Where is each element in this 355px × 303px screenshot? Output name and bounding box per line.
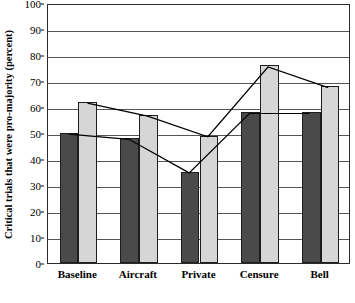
y-tick-mark [41,30,44,31]
bar [60,133,79,263]
y-tick-mark [41,108,44,109]
bar [200,136,219,263]
bar [260,65,279,263]
y-tick-mark [41,238,44,239]
x-tick-label: Aircraft [119,268,157,280]
x-axis-category-labels: BaselineAircraftPrivateCensureBell [47,266,350,290]
y-tick-label: 30 [30,180,41,192]
y-tick-label: 60 [30,102,41,114]
y-axis-title: Critical trials that were pro-majority (… [0,0,18,268]
y-tick-label: 70 [30,76,41,88]
y-tick-mark [41,264,44,265]
y-axis-tick-labels: 0102030405060708090100 [18,0,44,268]
y-tick-label: 100 [25,0,42,10]
y-tick-mark [41,212,44,213]
y-tick-mark [41,4,44,5]
x-tick-label: Bell [311,268,329,280]
bar [321,86,340,263]
x-tick-label: Censure [240,268,279,280]
bar [181,172,200,263]
y-tick-mark [41,82,44,83]
bar-chart: Critical trials that were pro-majority (… [0,0,355,303]
y-tick-label: 20 [30,206,41,218]
y-tick-label: 90 [30,24,41,36]
bars-layer [48,5,349,263]
y-tick-label: 50 [30,128,41,140]
bar [241,112,260,263]
bar [302,112,321,263]
y-tick-label: 10 [30,232,41,244]
x-tick-label: Baseline [58,268,97,280]
y-tick-mark [41,160,44,161]
plot-area [47,4,350,264]
y-axis-title-text: Critical trials that were pro-majority (… [4,29,15,238]
y-tick-mark [41,186,44,187]
bar [139,115,158,263]
y-tick-label: 80 [30,50,41,62]
y-tick-mark [41,134,44,135]
bar [78,102,97,263]
y-tick-label: 40 [30,154,41,166]
y-tick-mark [41,56,44,57]
bar [120,138,139,263]
x-tick-label: Private [181,268,215,280]
